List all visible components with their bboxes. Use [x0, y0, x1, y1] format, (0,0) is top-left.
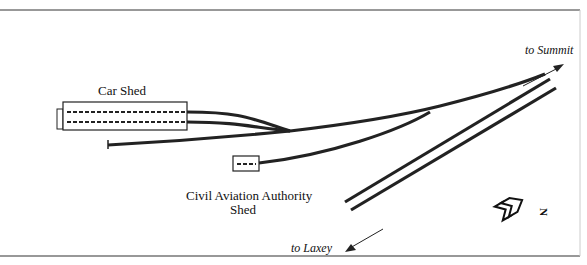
north-label: N	[537, 208, 551, 216]
north-arrow-icon	[495, 193, 526, 220]
running-line-2	[351, 88, 556, 210]
diagram-svg	[0, 0, 587, 265]
caa-siding	[259, 112, 430, 163]
caa-shed-label-line1: Civil Aviation Authority	[186, 189, 312, 203]
caa-shed-label-line2: Shed	[230, 203, 256, 217]
to-summit-label: to Summit	[525, 43, 573, 57]
to-laxey-label: to Laxey	[291, 241, 332, 255]
to-laxey-arrow-shaft	[350, 229, 383, 248]
car-shed-building	[63, 102, 187, 130]
car-shed-door	[57, 109, 63, 129]
track-diagram: Car Shed Civil Aviation Authority Shed t…	[0, 0, 587, 265]
to-summit-arrowhead	[553, 64, 564, 72]
car-shed-label: Car Shed	[98, 84, 146, 98]
running-line-1	[345, 79, 550, 202]
